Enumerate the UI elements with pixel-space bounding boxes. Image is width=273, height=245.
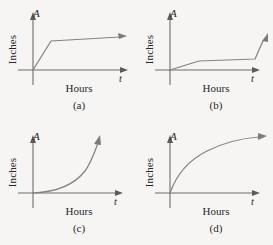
x-axis-title-c: Hours [0,206,136,217]
panel-caption-d: (d) [137,223,273,234]
x-axis-title-b: Hours [137,83,273,94]
graph-panel-a: A t Inches Hours (a) [0,0,136,122]
x-axis-title-a: Hours [0,83,136,94]
panel-caption-b: (b) [137,100,273,111]
graph-panel-d: A t Inches Hours (d) [137,123,273,245]
x-axis-title-d: Hours [137,206,273,217]
y-axis-title-a: Inches [7,27,18,73]
data-curve-a [33,37,120,70]
y-axis-symbol-a: A [33,8,40,19]
data-curve-arrow-a [118,33,127,39]
y-axis-title-d: Inches [144,150,155,196]
panel-caption-a: (a) [0,100,136,111]
data-curve-arrow-c [94,135,101,145]
y-axis-title-b: Inches [144,27,155,73]
y-axis-symbol-d: A [170,131,177,142]
y-axis-title-c: Inches [7,150,18,196]
panel-caption-c: (c) [0,223,136,234]
y-axis-symbol-b: A [170,8,177,19]
data-curve-d [170,137,259,193]
graph-panel-b: A t Inches Hours (b) [137,0,273,122]
y-axis-symbol-c: A [33,131,40,142]
data-curve-c [33,143,98,193]
data-curve-b [170,41,263,70]
data-curve-arrow-b [262,33,268,42]
graph-panel-c: A t Inches Hours (c) [0,123,136,245]
four-graph-figure: A t Inches Hours (a) A t Inches Hours (b… [0,0,273,245]
data-curve-arrow-d [258,133,267,140]
